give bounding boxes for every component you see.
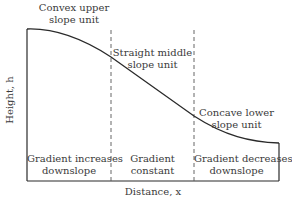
- gradient-label-middle-line1: Gradient: [111, 153, 194, 165]
- straight-unit-label-line2: slope unit: [111, 59, 194, 71]
- gradient-label-upper-line2: downslope: [27, 165, 111, 177]
- y-axis-label: Height, h: [4, 75, 16, 125]
- concave-unit-label: Concave lower slope unit: [194, 107, 279, 131]
- gradient-label-middle: Gradient constant: [111, 153, 194, 177]
- straight-unit-label: Straight middle slope unit: [111, 47, 194, 71]
- convex-unit-label: Convex upper slope unit: [24, 2, 124, 26]
- gradient-label-middle-line2: constant: [111, 165, 194, 177]
- gradient-label-lower-line2: downslope: [194, 165, 279, 177]
- concave-unit-label-line1: Concave lower: [194, 107, 279, 119]
- convex-unit-label-line1: Convex upper: [24, 2, 124, 14]
- straight-unit-label-line1: Straight middle: [111, 47, 194, 59]
- x-axis-label: Distance, x: [103, 186, 203, 198]
- gradient-label-lower: Gradient decreases downslope: [194, 153, 279, 177]
- convex-unit-label-line2: slope unit: [24, 14, 124, 26]
- gradient-label-upper-line1: Gradient increases: [27, 153, 111, 165]
- gradient-label-upper: Gradient increases downslope: [27, 153, 111, 177]
- concave-unit-label-line2: slope unit: [194, 119, 279, 131]
- gradient-label-lower-line1: Gradient decreases: [194, 153, 279, 165]
